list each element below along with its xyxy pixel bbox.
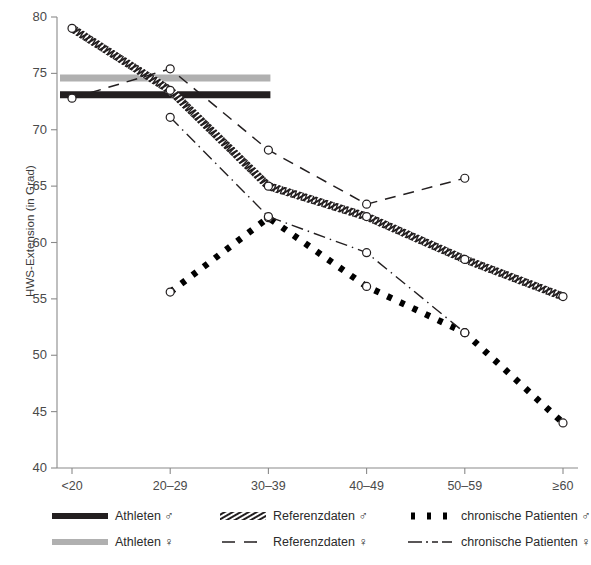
data-point <box>264 146 272 154</box>
y-tick-label: 50 <box>13 347 47 362</box>
axis-lines <box>51 17 578 474</box>
legend-item-athleten-female: Athleten ♀ <box>52 535 220 549</box>
data-point <box>166 65 174 73</box>
y-tick-label: 40 <box>13 460 47 475</box>
data-point <box>166 113 174 121</box>
legend-swatch-solid-dark-band <box>52 509 108 523</box>
x-tick-label: 30–39 <box>251 479 286 493</box>
x-tick-label: 40–49 <box>349 479 384 493</box>
chart-legend: Athleten ♂ Referenzdaten ♂ chronische Pa… <box>52 503 585 555</box>
series-layer <box>60 28 563 423</box>
data-point <box>461 329 469 337</box>
data-point <box>559 419 567 427</box>
legend-item-chronische-patienten-female: chronische Patienten ♀ <box>408 535 591 549</box>
legend-swatch-dashed <box>220 535 266 549</box>
data-point <box>68 24 76 32</box>
data-point <box>363 282 371 290</box>
legend-item-referenzdaten-female: Referenzdaten ♀ <box>220 535 408 549</box>
legend-label-chronische-patienten-female: chronische Patienten ♀ <box>461 536 591 549</box>
legend-label-athleten-male: Athleten ♂ <box>115 510 174 523</box>
legend-swatch-thick-dotted <box>408 509 454 523</box>
data-point <box>264 182 272 190</box>
legend-label-referenzdaten-male: Referenzdaten ♂ <box>273 510 368 523</box>
legend-label-chronische-patienten-male: chronische Patienten ♂ <box>461 510 591 523</box>
data-point <box>461 255 469 263</box>
data-point <box>68 94 76 102</box>
legend-swatch-hatched <box>220 509 266 523</box>
legend-item-referenzdaten-male: Referenzdaten ♂ <box>220 509 408 523</box>
x-tick-label: 50–59 <box>447 479 482 493</box>
legend-swatch-solid-gray-band <box>52 535 108 549</box>
data-point <box>461 174 469 182</box>
series-5 <box>170 117 465 332</box>
x-tick-label: <20 <box>61 479 82 493</box>
y-tick-label: 65 <box>13 178 47 193</box>
legend-label-athleten-female: Athleten ♀ <box>115 536 174 549</box>
data-point <box>166 86 174 94</box>
legend-item-chronische-patienten-male: chronische Patienten ♂ <box>408 509 591 523</box>
data-point <box>363 213 371 221</box>
data-point <box>363 200 371 208</box>
y-tick-label: 45 <box>13 404 47 419</box>
data-point <box>166 288 174 296</box>
y-tick-label: 60 <box>13 235 47 250</box>
x-tick-label: ≥60 <box>553 479 574 493</box>
marker-layer <box>68 24 567 427</box>
y-tick-label: 80 <box>13 9 47 24</box>
legend-label-referenzdaten-female: Referenzdaten ♀ <box>273 536 368 549</box>
series-2 <box>72 28 563 296</box>
data-point <box>559 293 567 301</box>
legend-swatch-dash-dot <box>408 535 454 549</box>
x-tick-label: 20–29 <box>153 479 188 493</box>
y-tick-label: 55 <box>13 291 47 306</box>
data-point <box>264 213 272 221</box>
y-axis-title: HWS-Extension (in Grad) <box>24 116 36 346</box>
data-point <box>363 249 371 257</box>
y-tick-label: 75 <box>13 65 47 80</box>
legend-item-athleten-male: Athleten ♂ <box>52 509 220 523</box>
y-tick-label: 70 <box>13 122 47 137</box>
